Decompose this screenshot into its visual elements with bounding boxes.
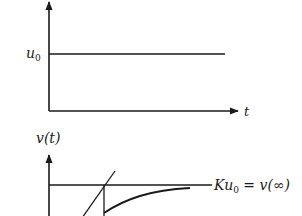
t-axis-label: t [244,104,250,119]
input-step-graph: u0 t [26,2,250,119]
asymptote-label: Ku0 = v(∞) [213,177,290,195]
response-graph: v(t) Ku0 = v(∞) [36,130,290,216]
response-curve [104,188,190,213]
step-level-label: u0 [26,45,41,63]
step-response-diagram: u0 t v(t) Ku0 = v(∞) [0,0,302,216]
v-axis-label: v(t) [36,130,60,146]
